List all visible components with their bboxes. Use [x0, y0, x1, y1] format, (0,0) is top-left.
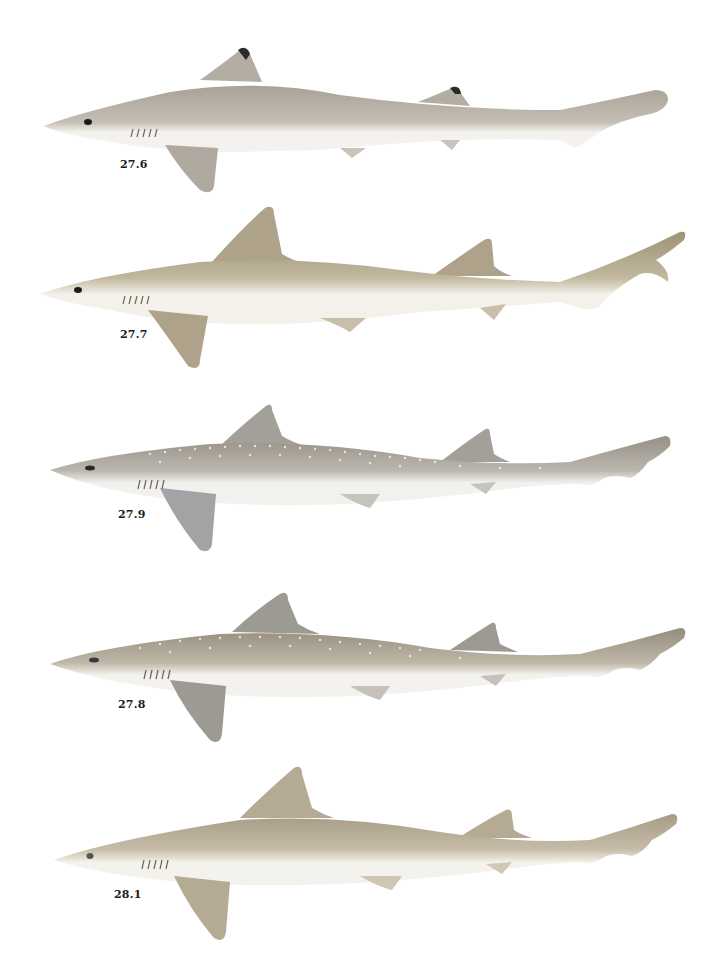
figure-label: 27.8: [118, 698, 146, 711]
figure-label: 28.1: [114, 888, 142, 901]
shark-illustration-28-1: 28.1: [0, 760, 722, 950]
shark-illustration-27-6: 27.6: [0, 40, 722, 200]
figure-label: 27.7: [120, 328, 148, 341]
shark-illustration-27-8: 27.8: [0, 588, 722, 748]
shark-illustration-27-7: 27.7: [0, 200, 722, 380]
figure-label: 27.9: [118, 508, 146, 521]
figure-label: 27.6: [120, 158, 148, 171]
shark-illustration-27-9: 27.9: [0, 400, 722, 560]
shark-species-plate: 27.6 27.7: [0, 0, 722, 974]
